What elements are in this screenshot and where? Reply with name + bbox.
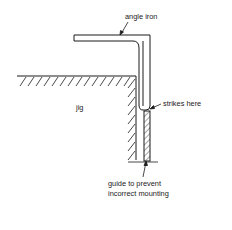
jig-body xyxy=(17,76,136,160)
jig-top-hatching xyxy=(20,77,130,86)
angle-iron xyxy=(74,35,150,110)
angle-iron-jig-diagram: angle iron jig strikes here guide to pre… xyxy=(0,0,232,230)
label-jig: jig xyxy=(75,103,83,112)
label-angle-iron: angle iron xyxy=(125,12,157,21)
angle-iron-outline xyxy=(74,35,150,110)
label-strikes-here: strikes here xyxy=(163,99,201,108)
guide-strip xyxy=(144,111,150,161)
label-guide-line1: guide to prevent xyxy=(108,179,161,188)
label-guide-line2: incorrect mounting xyxy=(108,189,169,198)
jig-wall-hatching xyxy=(128,79,135,160)
strikes-here-arrowhead xyxy=(150,106,155,110)
